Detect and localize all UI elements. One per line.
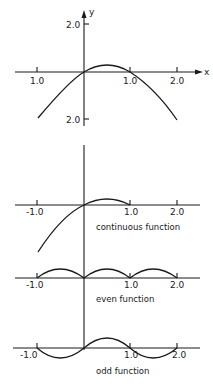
x-tick-label: 1.0 bbox=[124, 280, 139, 290]
y-tick-label-top: 2.0 bbox=[66, 20, 81, 30]
x-tick-label: -1.0 bbox=[26, 207, 44, 217]
x-tick-label: 1.0 bbox=[30, 76, 45, 86]
x-tick-label: 2.0 bbox=[170, 280, 185, 290]
top-plot: x 2.0 2.0 1.0 1.0 2.0 bbox=[15, 20, 210, 125]
function-extension-diagram: y x 2.0 2.0 1.0 1.0 2.0 -1.0 1.0 2.0 con… bbox=[0, 0, 213, 388]
x-tick-label: 1.0 bbox=[123, 76, 138, 86]
x-tick-label: 2.0 bbox=[170, 76, 185, 86]
parabola-curve bbox=[38, 65, 177, 120]
continuous-plot: -1.0 1.0 2.0 continuous function bbox=[15, 145, 200, 260]
x-tick-label: -1.0 bbox=[20, 350, 38, 360]
y-axis-label: y bbox=[89, 7, 95, 17]
even-plot: -1.0 1.0 2.0 even function bbox=[15, 260, 200, 350]
even-caption: even function bbox=[96, 294, 154, 304]
x-tick-label: -1.0 bbox=[26, 280, 44, 290]
y-tick-label-bottom: 2.0 bbox=[66, 115, 81, 125]
x-axis-label: x bbox=[204, 67, 210, 77]
x-tick-label: 1.0 bbox=[124, 207, 139, 217]
x-tick-label: 1.0 bbox=[124, 350, 139, 360]
even-curve bbox=[37, 269, 177, 278]
x-tick-label: 2.0 bbox=[170, 207, 185, 217]
continuous-caption: continuous function bbox=[96, 222, 180, 232]
x-axis-arrow-icon bbox=[195, 70, 203, 75]
x-tick-label: 2.0 bbox=[172, 350, 187, 360]
y-axis-arrow-icon bbox=[82, 10, 87, 18]
odd-plot: -1.0 1.0 2.0 odd function bbox=[13, 338, 200, 376]
odd-caption: odd function bbox=[96, 366, 149, 376]
